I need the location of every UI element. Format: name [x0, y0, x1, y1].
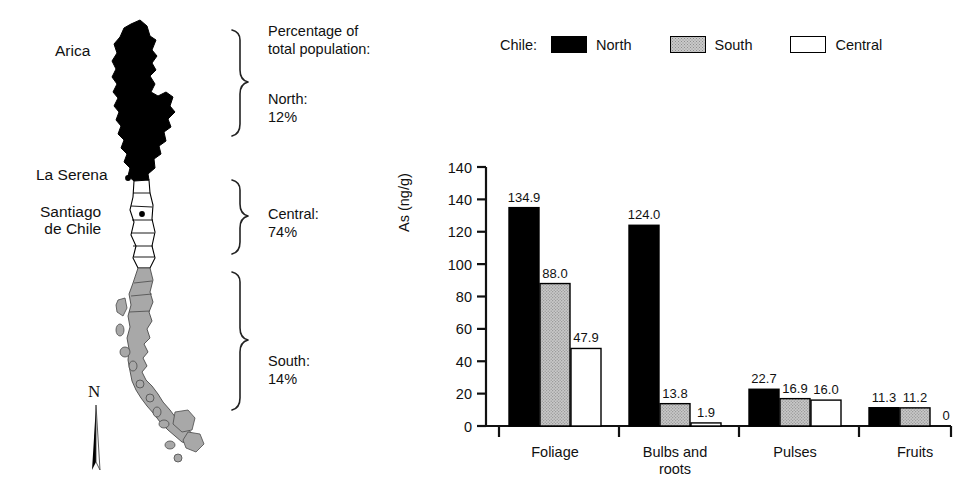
region-braces	[232, 30, 248, 410]
chart-plot-area: 140140120100806040200 134.988.047.9124.0…	[390, 0, 961, 495]
city-label-santiago: Santiago de Chile	[40, 203, 101, 238]
y-tick-label: 20	[456, 386, 472, 402]
bar-value-label: 13.8	[662, 386, 687, 401]
bar-value-label: 16.9	[782, 381, 807, 396]
bar-value-label: 88.0	[542, 266, 567, 281]
bar-north-2[interactable]	[749, 389, 779, 426]
city-dot-santiago	[139, 211, 145, 217]
bar-north-3[interactable]	[869, 408, 899, 426]
category-label-3: Fruits	[897, 444, 933, 460]
y-tick-label: 0	[464, 419, 472, 435]
bars-group: 134.988.047.9124.013.81.922.716.916.011.…	[508, 190, 950, 426]
region-label-central: Central: 74%	[268, 205, 319, 241]
compass-needle	[92, 405, 100, 470]
bar-value-label: 11.3	[872, 390, 896, 405]
city-label-arica: Arica	[55, 42, 90, 59]
city-dot-la-serena	[125, 175, 131, 181]
bar-value-label: 16.0	[813, 382, 838, 397]
category-label-1: Bulbs androots	[643, 444, 708, 477]
bar-south-0[interactable]	[540, 284, 570, 426]
y-tick-label: 120	[448, 224, 472, 240]
brace-south	[232, 272, 248, 410]
bar-value-label: 11.2	[903, 390, 927, 405]
compass-north-letter: N	[88, 382, 100, 402]
y-tick-label: 80	[456, 289, 472, 305]
brace-central	[232, 180, 248, 254]
map-region-north	[112, 20, 175, 181]
brace-north	[232, 30, 248, 136]
figure-root: Arica La Serena Santiago de Chile Percen…	[0, 0, 961, 495]
category-labels-group: FoliageBulbs androotsPulsesFruits	[531, 444, 933, 477]
y-tick-label: 140	[448, 160, 472, 176]
bar-central-1[interactable]	[691, 423, 721, 426]
category-label-0: Foliage	[531, 444, 579, 460]
bar-chart-panel: Chile: North South Central As (ng/g)	[390, 0, 961, 495]
bar-value-label: 0	[942, 408, 949, 423]
bar-south-2[interactable]	[780, 399, 810, 426]
category-label-2: Pulses	[773, 444, 817, 460]
chile-map-svg	[0, 0, 390, 495]
bar-south-1[interactable]	[660, 404, 690, 426]
bar-central-2[interactable]	[811, 400, 841, 426]
bar-value-label: 1.9	[697, 405, 715, 420]
y-tick-label: 40	[456, 354, 472, 370]
city-label-la-serena: La Serena	[36, 166, 108, 183]
population-caption: Percentage of total population:	[268, 22, 370, 58]
bar-north-1[interactable]	[629, 225, 659, 426]
chile-map-panel: Arica La Serena Santiago de Chile Percen…	[0, 0, 390, 495]
bar-value-label: 124.0	[628, 207, 661, 222]
bar-south-3[interactable]	[900, 408, 930, 426]
y-tick-label: 60	[456, 321, 472, 337]
bar-value-label: 47.9	[573, 330, 598, 345]
y-tick-label: 100	[448, 257, 472, 273]
bar-value-label: 22.7	[751, 371, 776, 386]
bar-central-0[interactable]	[571, 348, 601, 426]
region-label-south: South: 14%	[268, 352, 310, 388]
region-label-north: North: 12%	[268, 90, 308, 126]
y-tick-label: 140	[448, 192, 472, 208]
bar-value-label: 134.9	[508, 190, 541, 205]
bar-north-0[interactable]	[509, 208, 539, 426]
